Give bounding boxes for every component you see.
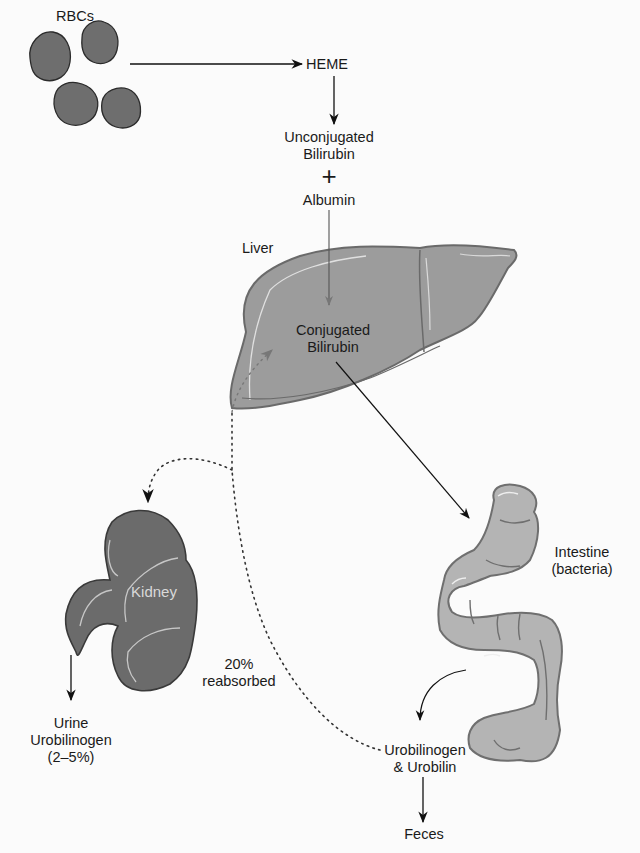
label-line: Urine [30,715,111,732]
label-line: Unconjugated [284,129,374,146]
label-line: Urobilinogen [384,742,465,759]
label-conjugated-bilirubin: Conjugated Bilirubin [296,322,370,356]
dotted-reabsorption-path [232,412,380,750]
plus-sign: + [321,166,336,186]
label-line: Intestine [551,544,612,561]
label-heme: HEME [306,56,348,73]
arrow-intestine-to-urobilin [420,670,466,720]
label-kidney: Kidney [131,583,177,600]
label-line: (2–5%) [30,749,111,766]
label-urine-urobilinogen: Urine Urobilinogen (2–5%) [30,715,111,766]
label-albumin: Albumin [303,192,355,209]
label-unconjugated-bilirubin: Unconjugated Bilirubin [284,129,374,163]
rbc-cell [30,32,71,81]
liver [231,245,517,408]
label-intestine: Intestine (bacteria) [551,544,612,578]
rbc-cell [102,88,141,128]
rbc-cell [82,21,118,64]
label-20-percent-reabsorbed: 20% reabsorbed [202,656,275,690]
label-line: reabsorbed [202,673,275,690]
label-rbcs: RBCs [56,8,94,25]
arrow-conjugated-to-intestine [336,362,469,518]
dotted-to-kidney [148,459,232,502]
kidney [66,510,197,690]
intestine [438,485,562,762]
rbc-cell [54,82,98,125]
label-line: & Urobilin [384,759,465,776]
label-line: Conjugated [296,322,370,339]
label-liver: Liver [242,240,273,257]
label-line: Urobilinogen [30,732,111,749]
label-line: (bacteria) [551,561,612,578]
label-line: Bilirubin [296,339,370,356]
label-feces: Feces [404,826,444,843]
label-line: 20% [202,656,275,673]
rbc-cells [30,21,141,128]
label-urobilinogen-urobilin: Urobilinogen & Urobilin [384,742,465,776]
